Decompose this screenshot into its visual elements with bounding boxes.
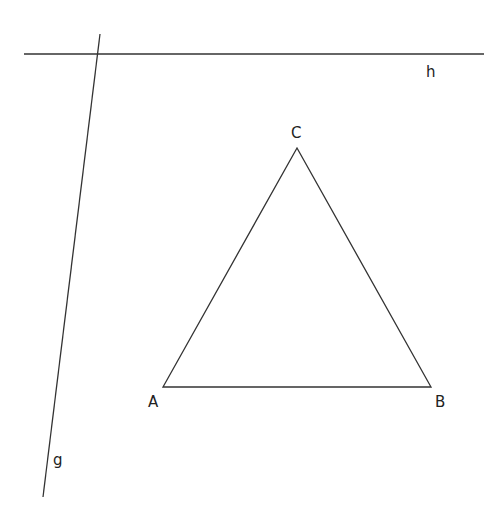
label-h: h — [426, 63, 436, 81]
vertex-label-b: B — [435, 393, 445, 411]
vertex-label-c: C — [291, 124, 301, 142]
vertex-label-a: A — [148, 393, 159, 411]
triangle-abc — [163, 148, 431, 387]
line-g — [43, 34, 100, 497]
label-g: g — [53, 451, 63, 469]
geometry-canvas: h g A B C — [0, 0, 504, 515]
